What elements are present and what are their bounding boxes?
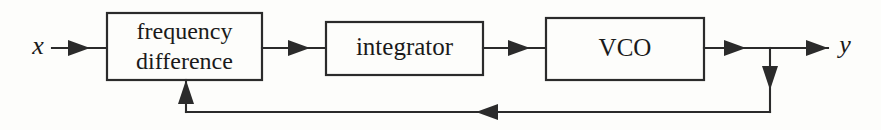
block-vco-label: VCO (599, 34, 652, 61)
block-diagram-svg: x frequency difference integrator (0, 0, 881, 130)
arrowhead-vco-output (724, 40, 746, 56)
wire-frequency-difference-to-integrator (262, 40, 326, 56)
block-integrator[interactable]: integrator (326, 22, 483, 75)
arrowhead-feedback-up (178, 80, 194, 104)
arrowhead-to-vco (508, 40, 530, 56)
arrowhead-to-integrator (288, 40, 310, 56)
block-frequency-difference-label-line2: difference (136, 48, 233, 74)
block-integrator-label: integrator (356, 33, 454, 60)
block-diagram-canvas: x frequency difference integrator (0, 0, 881, 130)
output-label-y: y (836, 30, 851, 59)
block-vco[interactable]: VCO (546, 18, 704, 80)
block-frequency-difference[interactable]: frequency difference (107, 13, 262, 80)
input-label-x: x (31, 31, 44, 60)
wire-integrator-to-vco (483, 40, 546, 56)
wire-vco-to-output (704, 40, 828, 56)
arrowhead-feedback-left (476, 104, 498, 120)
wire-input-to-frequency-difference (52, 40, 107, 56)
arrowhead-feedback-down (762, 66, 778, 90)
arrowhead-input (68, 40, 90, 56)
block-frequency-difference-label-line1: frequency (137, 18, 233, 44)
arrowhead-output (806, 40, 828, 56)
